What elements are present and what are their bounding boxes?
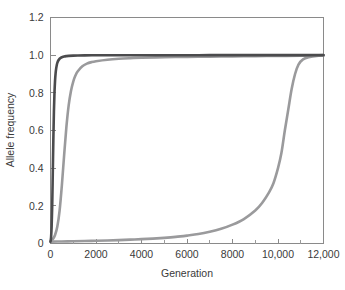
- x-tick-label: 4000: [130, 248, 154, 260]
- y-tick-label: 0.6: [29, 124, 44, 136]
- line-chart-svg: 00.20.40.60.81.01.2 0200040006000800010,…: [0, 0, 345, 290]
- x-tick-label: 8000: [221, 248, 245, 260]
- y-tick-label: 1.2: [29, 11, 44, 23]
- series-line-weak-selection: [51, 55, 324, 241]
- y-tick-label: 0.4: [29, 162, 44, 174]
- y-tick-label: 0.8: [29, 87, 44, 99]
- x-axis-tick-labels: 0200040006000800010,00012,000: [48, 248, 340, 260]
- x-axis-title: Generation: [161, 267, 213, 279]
- x-tick-label: 6000: [175, 248, 199, 260]
- y-tick-label: 0: [38, 237, 44, 249]
- chart-figure: 00.20.40.60.81.01.2 0200040006000800010,…: [0, 0, 345, 290]
- x-tick-label: 12,000: [307, 248, 339, 260]
- plot-frame: [51, 18, 324, 244]
- y-tick-label: 1.0: [29, 49, 44, 61]
- x-tick-label: 10,000: [262, 248, 294, 260]
- data-series-group: [51, 55, 324, 241]
- y-axis-tick-labels: 00.20.40.60.81.01.2: [29, 11, 44, 249]
- axis-frame: [51, 18, 324, 244]
- x-tick-label: 2000: [84, 248, 108, 260]
- y-tick-label: 0.2: [29, 200, 44, 212]
- x-tick-label: 0: [48, 248, 54, 260]
- y-axis-title: Allele frequency: [4, 92, 16, 167]
